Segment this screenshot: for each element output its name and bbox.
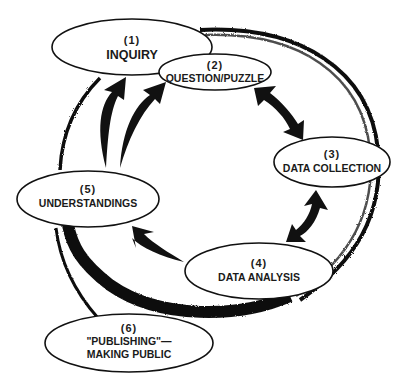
node-data-collection-number: (3) <box>324 148 340 160</box>
node-data-analysis-label: DATA ANALYSIS <box>218 271 300 283</box>
arrow-data-collection-data-analysis <box>286 190 328 242</box>
inquiry-cycle-diagram: (1) INQUIRY (2) QUESTION/PUZZLE (3) DATA… <box>0 0 403 385</box>
node-publishing-label-line2: MAKING PUBLIC <box>87 348 172 360</box>
arrow-data-analysis-to-understandings <box>132 226 184 262</box>
node-data-analysis: (4) DATA ANALYSIS <box>185 243 333 299</box>
node-publishing-label-line1: "PUBLISHING"— <box>86 335 172 347</box>
node-understandings-label: UNDERSTANDINGS <box>39 197 137 209</box>
node-understandings: (5) UNDERSTANDINGS <box>17 171 159 227</box>
node-publishing: (6) "PUBLISHING"— MAKING PUBLIC <box>45 314 213 372</box>
node-publishing-number: (6) <box>121 322 137 334</box>
node-question-number: (2) <box>207 59 223 71</box>
node-question-label: QUESTION/PUZZLE <box>166 72 265 84</box>
node-understandings-number: (5) <box>80 183 96 195</box>
node-inquiry-number: (1) <box>124 34 140 46</box>
node-data-analysis-number: (4) <box>251 257 267 269</box>
node-inquiry-label: INQUIRY <box>106 48 158 62</box>
arrow-understandings-to-question <box>120 82 166 168</box>
node-data-collection: (3) DATA COLLECTION <box>274 137 390 187</box>
node-question-puzzle: (2) QUESTION/PUZZLE <box>159 54 271 90</box>
node-data-collection-label: DATA COLLECTION <box>283 162 381 174</box>
arrow-question-data-collection <box>254 86 304 140</box>
